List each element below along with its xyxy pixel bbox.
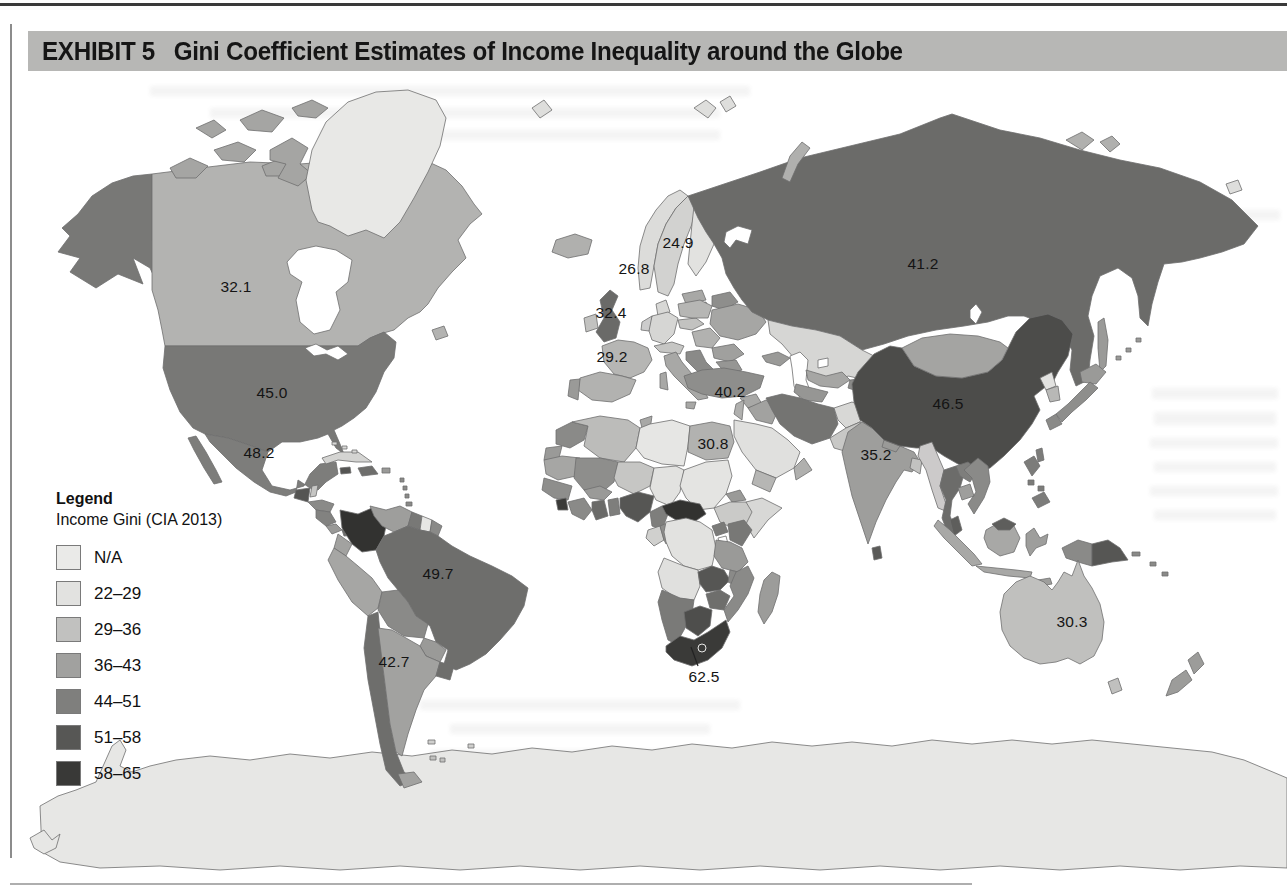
legend-bin-label: 44–51 bbox=[94, 689, 141, 714]
country-value-label-australia: 30.3 bbox=[1057, 613, 1088, 631]
legend-swatch bbox=[56, 653, 81, 678]
country-mozambique bbox=[724, 566, 754, 622]
country-australia-tasmania bbox=[1108, 678, 1122, 694]
aral-sea bbox=[818, 358, 828, 368]
country-botswana bbox=[684, 606, 712, 636]
country-haiti-dominican-republic bbox=[358, 466, 378, 476]
country-togo-benin bbox=[608, 498, 620, 516]
country-indonesia-java bbox=[976, 566, 1032, 578]
country-senegal-guinea bbox=[542, 478, 572, 500]
country-japan-honshu bbox=[1056, 382, 1098, 422]
country-value-label-mexico: 48.2 bbox=[244, 444, 275, 462]
country-canada bbox=[432, 326, 448, 340]
country-honduras bbox=[308, 500, 334, 512]
country-guatemala bbox=[294, 488, 310, 502]
country-value-label-canada: 32.1 bbox=[221, 278, 252, 296]
legend-swatch bbox=[56, 761, 81, 786]
country-indonesia-sulawesi bbox=[1026, 528, 1048, 556]
country-taiwan bbox=[1036, 448, 1044, 462]
country-sri-lanka bbox=[872, 546, 882, 560]
country-sakhalin bbox=[1098, 318, 1108, 372]
country-libya bbox=[636, 420, 690, 466]
subantarctic-islands bbox=[428, 740, 474, 748]
country-new-zealand-north bbox=[1188, 652, 1204, 674]
country-value-label-turkey: 40.2 bbox=[715, 383, 746, 401]
legend-row: 44–51 bbox=[56, 689, 222, 714]
country-iceland bbox=[552, 234, 592, 258]
legend-row: 29–36 bbox=[56, 617, 222, 642]
scanned-page: EXHIBIT 5 Gini Coefficient Estimates of … bbox=[0, 0, 1287, 895]
legend-row: 58–65 bbox=[56, 761, 222, 786]
country-philippines-visayas bbox=[1028, 480, 1044, 491]
caucasus-states bbox=[762, 352, 790, 366]
legend-swatch bbox=[56, 725, 81, 750]
country-somalia bbox=[746, 498, 782, 538]
country-madagascar bbox=[758, 572, 780, 624]
legend-bin-label: 22–29 bbox=[94, 581, 141, 606]
country-value-label-south-africa: 62.5 bbox=[689, 668, 720, 686]
legend-swatch bbox=[56, 689, 81, 714]
lesser-antilles-islands bbox=[400, 478, 412, 506]
legend-subheading: Income Gini (CIA 2013) bbox=[56, 511, 222, 529]
country-poland bbox=[678, 300, 712, 318]
country-antarctica bbox=[40, 740, 1287, 870]
country-value-label-india: 35.2 bbox=[861, 446, 892, 464]
country-value-label-united-states: 45.0 bbox=[257, 384, 288, 402]
legend-row: 36–43 bbox=[56, 653, 222, 678]
country-philippines-mindanao bbox=[1032, 492, 1050, 508]
country-sierra-leone bbox=[556, 498, 568, 510]
country-value-label-sweden: 24.9 bbox=[663, 234, 694, 252]
legend-swatch bbox=[56, 581, 81, 606]
legend-row: N/A bbox=[56, 545, 222, 570]
country-value-label-norway: 26.8 bbox=[619, 260, 650, 278]
country-value-label-brazil: 49.7 bbox=[423, 565, 454, 583]
country-niger bbox=[614, 462, 654, 494]
country-cuba bbox=[322, 452, 372, 464]
country-value-label-argentina: 42.7 bbox=[379, 653, 410, 671]
country-italy-islands bbox=[660, 372, 668, 390]
country-puerto-rico bbox=[382, 468, 390, 473]
country-nigeria bbox=[620, 492, 654, 522]
country-sicily bbox=[686, 402, 696, 409]
country-morocco bbox=[556, 422, 588, 448]
country-lesotho bbox=[698, 644, 706, 652]
legend-bin-label: 51–58 bbox=[94, 725, 141, 750]
country-value-label-china: 46.5 bbox=[933, 395, 964, 413]
country-israel-jordan bbox=[734, 400, 744, 420]
country-romania bbox=[712, 344, 744, 362]
page-bottom-rule bbox=[10, 883, 972, 885]
country-ghana bbox=[592, 500, 608, 520]
legend-bin-label: 58–65 bbox=[94, 761, 141, 786]
kuril-islands bbox=[1116, 338, 1141, 360]
country-nicaragua bbox=[316, 510, 336, 526]
country-czech-slovakia bbox=[678, 318, 704, 330]
country-zambia bbox=[698, 566, 730, 592]
map-legend: Legend Income Gini (CIA 2013) N/A22–2929… bbox=[56, 490, 222, 797]
legend-row: 22–29 bbox=[56, 581, 222, 606]
country-value-label-russia: 41.2 bbox=[908, 255, 939, 273]
country-jamaica bbox=[340, 467, 351, 474]
country-costa-rica bbox=[326, 524, 342, 534]
legend-bin-label: 29–36 bbox=[94, 617, 141, 642]
legend-bin-label: 36–43 bbox=[94, 653, 141, 678]
legend-swatch bbox=[56, 617, 81, 642]
country-new-zealand-south bbox=[1166, 670, 1192, 696]
country-value-label-egypt: 30.8 bbox=[698, 435, 729, 453]
country-value-label-united-kingdom: 32.4 bbox=[596, 304, 627, 322]
country-eritrea-djibouti bbox=[726, 490, 746, 502]
melanesia-islands bbox=[1132, 552, 1168, 576]
country-germany bbox=[648, 312, 678, 344]
legend-swatch bbox=[56, 545, 81, 570]
country-ivory-coast bbox=[568, 498, 592, 520]
alpine-countries bbox=[654, 342, 684, 354]
country-value-label-france: 29.2 bbox=[597, 348, 628, 366]
legend-rows: N/A22–2929–3636–4344–5151–5858–65 bbox=[56, 545, 222, 786]
legend-row: 51–58 bbox=[56, 725, 222, 750]
legend-heading: Legend bbox=[56, 490, 222, 508]
country-papua-new-guinea bbox=[1092, 540, 1128, 566]
country-portugal bbox=[568, 379, 580, 400]
legend-bin-label: N/A bbox=[94, 545, 122, 570]
country-peru bbox=[328, 548, 382, 616]
